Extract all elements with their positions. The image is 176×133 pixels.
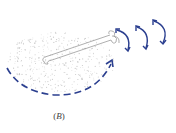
rotation-arrows [116,20,166,51]
dashed-arc-arrow [7,60,113,95]
tube-tip [109,31,119,43]
diagram-figure [0,0,176,133]
panel-label-close: ) [62,111,65,121]
tube [43,35,111,64]
panel-label: (B) [44,111,74,121]
stippled-region [8,32,114,92]
rotation-arrow-1 [116,29,130,51]
rotation-arrow-2 [136,26,148,49]
rotation-arrow-3 [153,20,166,44]
